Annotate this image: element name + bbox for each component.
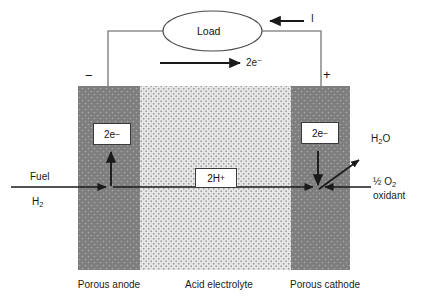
water-label: H2O: [371, 134, 390, 146]
anode-electron-charge: −: [115, 129, 120, 139]
caption-acid-electrolyte: Acid electrolyte: [176, 279, 262, 290]
fuel-formula-sub: 2: [39, 200, 43, 209]
current-label: I: [311, 14, 314, 25]
cathode-polarity-sign: +: [323, 68, 331, 81]
anode-electron-base: 2e: [104, 129, 115, 140]
anode-electron-box: 2e−: [93, 123, 131, 145]
anode-electrode: [78, 86, 140, 270]
anode-polarity-sign: −: [85, 69, 93, 82]
cathode-electron-base: 2e: [312, 128, 323, 139]
load-label: Load: [197, 25, 220, 37]
proton-base: 2H: [207, 173, 220, 184]
fuel-cell-diagram: Load I 2e− − + 2e− 2e− 2H+ Fuel H2 H2O ½…: [0, 0, 421, 308]
cathode-electron-box: 2e−: [301, 122, 339, 144]
caption-porous-cathode: Porous cathode: [281, 279, 369, 290]
oxidant-label: oxidant: [373, 191, 405, 202]
cathode-electrode: [291, 86, 350, 270]
oxidant-formula-sub: 2: [392, 180, 396, 189]
fuel-formula: H2: [32, 197, 43, 209]
electron-flow-charge: −: [257, 56, 261, 65]
proton-charge: +: [220, 173, 225, 183]
proton-box: 2H+: [195, 168, 237, 188]
wire-anode-to-load: [108, 31, 163, 86]
fuel-label: Fuel: [30, 172, 49, 183]
oxidant-fraction: ½: [373, 176, 381, 187]
water-base-o: O: [382, 133, 390, 144]
oxidant-formula-base: O: [384, 176, 392, 187]
caption-porous-anode: Porous anode: [69, 279, 149, 290]
electron-flow-base: 2e: [246, 57, 257, 68]
wire-load-to-cathode: [262, 31, 321, 86]
cathode-electron-charge: −: [323, 128, 328, 138]
diagram-canvas: [0, 0, 421, 308]
electron-flow-label: 2e−: [246, 57, 262, 69]
oxidant-formula: ½ O2: [373, 177, 396, 189]
